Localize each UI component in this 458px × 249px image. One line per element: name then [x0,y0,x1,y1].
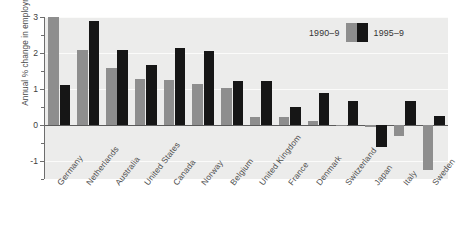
bar-australia-1995-9 [117,50,128,125]
bar-italy-1990-9 [394,125,405,136]
y-axis-tick-label: -1 [8,156,38,166]
y-axis-tick-label: 2 [8,48,38,58]
y-axis-tick-labels: -10123 [4,0,38,249]
bar-united-kingdom-1995-9 [261,81,272,125]
y-axis-tick [40,89,44,90]
bar-norway-1990-9 [192,84,203,125]
legend-label-1995: 1995–9 [368,28,411,38]
y-axis-tick [40,53,44,54]
bar-canada-1990-9 [164,80,175,125]
bar-canada-1995-9 [175,48,186,125]
x-axis-tick-labels: GermanyNetherlandsAustraliaUnited States… [45,181,448,249]
bar-sweden-1990-9 [423,125,434,170]
bar-netherlands-1990-9 [77,50,88,125]
bar-denmark-1995-9 [319,93,330,125]
y-axis-tick-label: 1 [8,84,38,94]
bar-netherlands-1995-9 [89,21,100,125]
bar-germany-1990-9 [48,17,59,125]
y-axis-minor-tick [41,71,44,72]
bar-united-kingdom-1990-9 [250,117,261,125]
bar-belgium-1990-9 [221,88,232,125]
y-axis-tick-label: 3 [8,12,38,22]
bar-norway-1995-9 [204,51,215,125]
bar-united-states-1990-9 [135,79,146,125]
gridline [45,17,448,18]
bar-japan-1995-9 [376,125,387,147]
bar-united-states-1995-9 [146,65,157,125]
zero-baseline [45,125,448,126]
y-axis-tick [40,17,44,18]
y-axis-tick-label: 0 [8,120,38,130]
chart-legend: 1990–9 1995–9 [303,23,410,42]
legend-label-1990: 1990–9 [303,28,346,38]
y-axis-minor-tick [41,179,44,180]
bar-italy-1995-9 [405,101,416,125]
bar-belgium-1995-9 [233,81,244,125]
y-axis-minor-tick [41,143,44,144]
bar-denmark-1990-9 [308,121,319,125]
bar-switzerland-1995-9 [348,101,359,125]
gridline [45,53,448,54]
y-axis-tick [40,161,44,162]
bar-sweden-1995-9 [434,116,445,125]
employment-change-bar-chart: Annual % change in employment -10123 Ger… [0,0,458,249]
y-axis-minor-tick [41,35,44,36]
bar-australia-1990-9 [106,68,117,125]
bar-france-1995-9 [290,107,301,125]
legend-swatch-1990 [346,23,357,42]
y-axis-tick [40,125,44,126]
bar-switzerland-1990-9 [336,125,347,126]
legend-swatch-1995 [357,23,368,42]
bar-france-1990-9 [279,117,290,125]
y-axis-minor-tick [41,107,44,108]
bar-japan-1990-9 [365,125,376,127]
bar-germany-1995-9 [60,85,71,125]
